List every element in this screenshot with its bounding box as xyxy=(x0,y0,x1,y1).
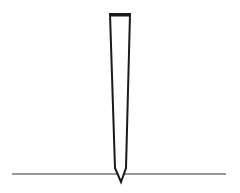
stake-diagram xyxy=(0,0,240,193)
